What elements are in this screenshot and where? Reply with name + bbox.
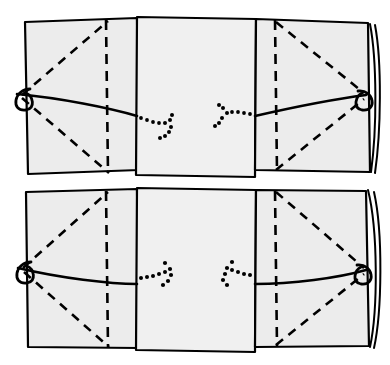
step-top-group (16, 17, 380, 177)
panel-center-top (136, 17, 256, 177)
panel-right-top (255, 19, 370, 172)
panel-left-bottom (26, 189, 139, 348)
step-bottom-group (17, 188, 381, 352)
diagram-canvas: Origami folding instruction diagram Two … (0, 0, 390, 365)
panel-right-bottom (255, 190, 369, 347)
origami-diagram-svg (0, 0, 390, 365)
